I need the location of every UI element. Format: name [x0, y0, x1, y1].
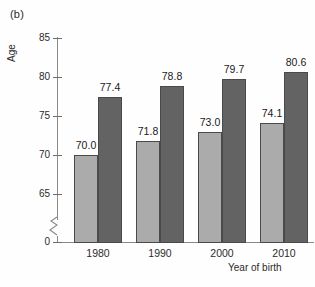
y-axis-line	[57, 37, 58, 220]
bar-light-1990[interactable]	[136, 141, 160, 243]
bar-dark-1980[interactable]	[98, 97, 122, 243]
y-tick-label-85: 85	[28, 33, 50, 43]
y-tick-mark-75	[53, 116, 62, 117]
bar-value-dark-1980: 77.4	[92, 82, 128, 93]
x-tick-label-1980: 1980	[76, 247, 120, 259]
bar-dark-1990[interactable]	[160, 86, 184, 243]
x-tick-label-2010: 2010	[262, 247, 306, 259]
y-tick-mark-0	[53, 242, 62, 243]
bar-value-light-2000: 73.0	[192, 117, 228, 128]
bar-light-1980[interactable]	[74, 155, 98, 243]
x-axis-title: Year of birth	[228, 262, 282, 273]
y-tick-mark-80	[53, 77, 62, 78]
bar-light-2010[interactable]	[260, 123, 284, 243]
y-tick-label-65: 65	[28, 189, 50, 199]
y-tick-mark-85	[53, 38, 62, 39]
y-tick-label-80: 80	[28, 72, 50, 82]
y-tick-mark-70	[53, 155, 62, 156]
x-tick-label-2000: 2000	[200, 247, 244, 259]
y-axis-title: Age	[6, 44, 17, 62]
y-tick-label-0: 0	[28, 237, 50, 247]
axis-break-icon	[44, 216, 58, 238]
bar-value-dark-1990: 78.8	[154, 71, 190, 82]
bar-value-dark-2010: 80.6	[278, 57, 314, 68]
bar-light-2000[interactable]	[198, 132, 222, 243]
bar-value-dark-2000: 79.7	[216, 64, 252, 75]
y-tick-mark-65	[53, 194, 62, 195]
panel-label: (b)	[10, 8, 24, 20]
bar-value-light-2010: 74.1	[254, 108, 290, 119]
y-tick-label-70: 70	[28, 150, 50, 160]
bar-dark-2010[interactable]	[284, 72, 308, 243]
x-tick-label-1990: 1990	[138, 247, 182, 259]
y-tick-label-75: 75	[28, 111, 50, 121]
bar-value-light-1990: 71.8	[130, 126, 166, 137]
bar-value-light-1980: 70.0	[68, 140, 104, 151]
bar-dark-2000[interactable]	[222, 79, 246, 243]
figure-panel: (b) Age 85 80 75 70 65 0 70.0 77.4 1980 …	[0, 0, 315, 287]
